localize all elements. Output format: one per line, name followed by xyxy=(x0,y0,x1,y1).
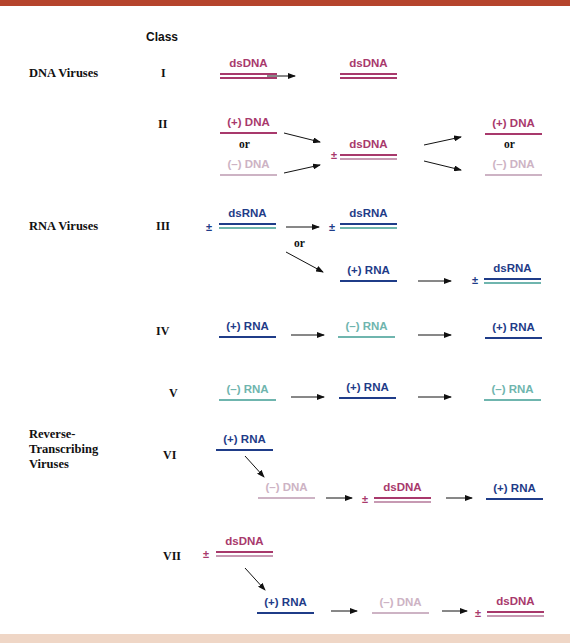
arrow-icon xyxy=(286,252,323,272)
arrow-icon xyxy=(284,133,320,142)
arrow-icon xyxy=(424,161,461,170)
arrow-icon xyxy=(245,456,264,477)
conversion-arrows xyxy=(0,0,570,643)
arrow-icon xyxy=(245,568,265,590)
arrow-icon xyxy=(424,137,461,145)
arrow-icon xyxy=(284,165,320,173)
